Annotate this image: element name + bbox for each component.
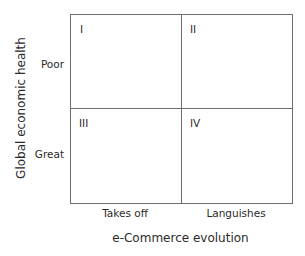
quadrant-label-iv: IV <box>190 117 200 129</box>
column-label-takes-off: Takes off <box>70 207 180 219</box>
y-axis-title: Global economic health <box>14 37 28 179</box>
row-label-great: Great <box>4 148 64 160</box>
column-label-languishes: Languishes <box>181 207 291 219</box>
matrix-grid: I II III IV <box>70 14 293 204</box>
quadrant-label-ii: II <box>190 23 196 35</box>
row-label-poor: Poor <box>4 58 64 70</box>
x-axis-title: e-Commerce evolution <box>70 231 291 245</box>
horizontal-divider <box>71 108 292 109</box>
vertical-divider <box>181 15 182 203</box>
quadrant-label-iii: III <box>79 117 88 129</box>
quadrant-label-i: I <box>80 23 83 35</box>
